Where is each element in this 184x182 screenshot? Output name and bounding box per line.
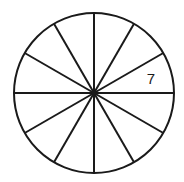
sector-label-7: 7	[147, 70, 155, 87]
divided-circle-diagram: 7	[0, 0, 184, 182]
center-point	[92, 91, 97, 96]
